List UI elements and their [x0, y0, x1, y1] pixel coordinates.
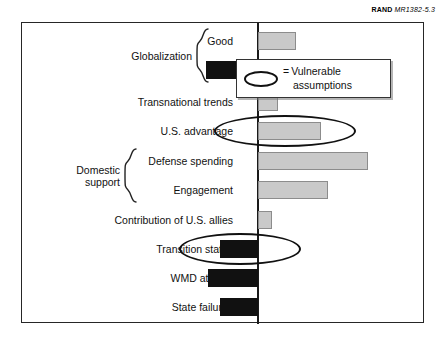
group-label-domestic-support: Domestic support [76, 163, 120, 187]
brace-icon [196, 27, 210, 84]
bar-wmd-attacks [208, 269, 258, 287]
bar-state-failures [220, 298, 258, 316]
bar-defense-spending [258, 152, 368, 170]
legend-text: =Vulnerable assumptions [283, 65, 352, 91]
figure-frame: Good Bad Globalization Transnational tre… [21, 22, 424, 323]
legend-equals-sign: = [283, 65, 289, 77]
legend-line-2: assumptions [293, 79, 352, 91]
chart-row: Transition states [22, 235, 423, 263]
row-label-contribution-of-us-allies: Contribution of U.S. allies [115, 214, 233, 226]
row-label-transnational-trends: Transnational trends [138, 96, 233, 108]
group-label-domestic-support-line2: support [85, 176, 120, 188]
chart-row: U.S. advantage [22, 117, 423, 145]
source-credit: RANDMR1382-5.3 [371, 6, 435, 13]
row-label-us-advantage: U.S. advantage [161, 125, 233, 137]
plot-area: Good Bad Globalization Transnational tre… [22, 23, 423, 322]
credit-organization: RAND [371, 6, 392, 13]
chart-row: State failures [22, 293, 423, 321]
group-label-domestic-support-line1: Domestic [76, 163, 120, 175]
row-label-engagement: Engagement [173, 184, 233, 196]
bar-us-advantage [258, 122, 321, 140]
legend-ellipse-icon [244, 71, 278, 87]
bar-good [258, 32, 296, 50]
legend-line-1: Vulnerable [291, 65, 341, 77]
bar-contribution-of-us-allies [258, 211, 272, 229]
row-label-defense-spending: Defense spending [148, 155, 233, 167]
chart-row: Contribution of U.S. allies [22, 206, 423, 234]
group-globalization: Globalization [58, 27, 224, 84]
chart-row: WMD attacks [22, 264, 423, 292]
group-domestic-support: Domestic support [22, 147, 150, 204]
bar-engagement [258, 181, 328, 199]
legend: =Vulnerable assumptions [236, 59, 391, 98]
brace-icon [124, 147, 138, 204]
credit-document-number: MR1382-5.3 [394, 6, 435, 13]
bar-transition-states [220, 240, 258, 258]
group-label-globalization: Globalization [131, 49, 192, 61]
